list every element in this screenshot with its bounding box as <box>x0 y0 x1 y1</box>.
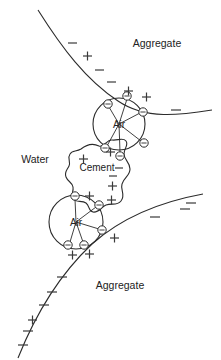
label-aggregate-top: Aggregate <box>133 37 182 49</box>
aggregate-bottom-boundary-curve <box>18 194 203 358</box>
surfactant-node <box>95 201 103 209</box>
charge-plus <box>107 196 116 205</box>
surfactant-node <box>104 100 112 108</box>
label-cement: Cement <box>79 162 114 173</box>
charge-plus <box>108 182 117 191</box>
surfactant-node <box>140 139 148 147</box>
surfactant-node <box>123 92 131 100</box>
surfactant-node <box>139 108 147 116</box>
surfactant-node <box>116 152 124 160</box>
surfactant-node <box>64 241 72 249</box>
label-water: Water <box>21 153 49 165</box>
charge-plus <box>68 251 77 260</box>
charge-plus <box>28 316 37 325</box>
charge-plus <box>85 250 94 259</box>
surfactant-node <box>71 192 79 200</box>
free-charge-group <box>18 43 196 345</box>
label-aggregate-bottom: Aggregate <box>96 279 145 291</box>
air-bubble-lower-label: Air <box>70 217 83 228</box>
diagram-svg: Air Air <box>0 0 221 360</box>
surfactant-node <box>101 144 109 152</box>
air-bubble-upper-label: Air <box>113 119 126 130</box>
charge-plus <box>110 234 119 243</box>
diagram-canvas: Air Air <box>0 0 221 360</box>
charge-plus <box>83 52 92 61</box>
charge-plus <box>85 192 94 201</box>
surfactant-node <box>80 241 88 249</box>
surfactant-node <box>98 226 106 234</box>
charge-plus <box>142 93 151 102</box>
